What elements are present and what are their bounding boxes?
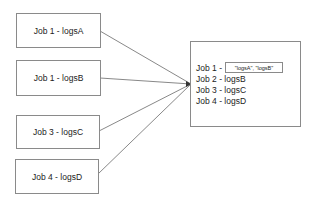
target-line-4: Job 4 - logsD xyxy=(196,96,246,106)
source-label: Job 3 - logsC xyxy=(33,127,83,137)
source-box-job1-logsA: Job 1 - logsA xyxy=(16,13,101,48)
source-box-job3-logsC: Job 3 - logsC xyxy=(16,115,100,149)
source-box-job4-logsD: Job 4 - logsD xyxy=(15,159,99,194)
target-line-3: Job 3 - logsC xyxy=(196,85,246,95)
source-label: Job 1 - logsB xyxy=(34,73,84,83)
source-box-job1-logsB: Job 1 - logsB xyxy=(16,60,101,96)
source-label: Job 1 - logsA xyxy=(34,26,84,36)
target-line-2: Job 2 - logsB xyxy=(196,74,246,84)
merged-target-box: Job 1 - "logsA", "logsB" Job 2 - logsB J… xyxy=(190,41,301,127)
source-label: Job 4 - logsD xyxy=(32,172,82,182)
merged-logs-value: "logsA", "logsB" xyxy=(225,62,283,73)
target-line-1: Job 1 - xyxy=(196,63,222,73)
